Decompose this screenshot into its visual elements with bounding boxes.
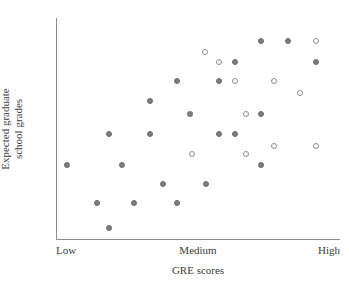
y-axis-title: Expected graduate school grades [0, 39, 25, 219]
data-point-filled [313, 59, 319, 65]
data-point-filled [258, 111, 264, 117]
data-point-open [232, 78, 238, 84]
data-point-open [187, 111, 193, 117]
data-point-open [313, 38, 319, 44]
data-point-open [189, 151, 195, 157]
data-point-filled [232, 131, 238, 137]
scatter-plot-figure: Low Medium High GRE scores Expected grad… [0, 0, 349, 291]
data-point-open [243, 111, 249, 117]
data-point-filled [258, 38, 264, 44]
plot-area [56, 18, 340, 239]
data-point-filled [131, 200, 137, 206]
data-point-filled [147, 131, 153, 137]
x-tick-label-low: Low [56, 244, 76, 257]
data-point-open [202, 49, 208, 55]
data-point-open [271, 78, 277, 84]
x-tick-label-medium: Medium [179, 244, 216, 257]
data-point-filled [174, 200, 180, 206]
y-axis-title-line-1: Expected graduate [0, 39, 12, 219]
data-point-filled [285, 38, 291, 44]
data-point-filled [216, 131, 222, 137]
data-point-open [216, 59, 222, 65]
data-point-filled [64, 162, 70, 168]
x-axis-line [56, 239, 340, 240]
data-point-filled [106, 225, 112, 231]
data-point-filled [174, 78, 180, 84]
data-point-filled [119, 162, 125, 168]
data-point-filled [160, 181, 166, 187]
data-point-filled [147, 98, 153, 104]
data-point-open [271, 143, 277, 149]
y-axis-title-line-2: school grades [12, 39, 25, 219]
data-point-filled [232, 59, 238, 65]
data-point-filled [106, 131, 112, 137]
data-point-filled [258, 162, 264, 168]
data-point-open [297, 90, 303, 96]
data-point-open [243, 151, 249, 157]
data-point-filled [203, 181, 209, 187]
data-point-open [313, 143, 319, 149]
data-point-filled [94, 200, 100, 206]
x-axis-title: GRE scores [172, 264, 224, 277]
x-tick-label-high: High [318, 244, 340, 257]
data-point-filled [216, 78, 222, 84]
